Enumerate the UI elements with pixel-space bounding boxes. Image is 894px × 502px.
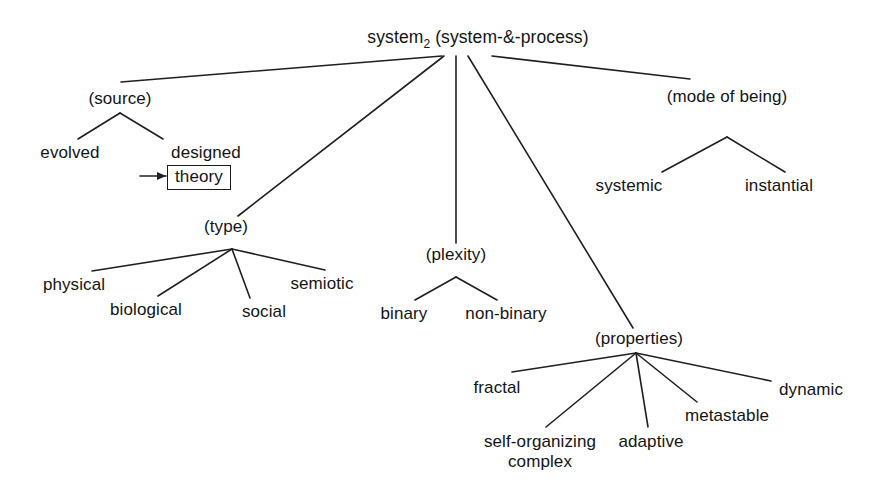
node-systemic: systemic xyxy=(596,176,663,196)
edge-root-to-type xyxy=(238,56,444,216)
node-mode-of-being: (mode of being) xyxy=(667,87,788,107)
node-non-binary: non-binary xyxy=(465,304,546,324)
edge-type-to-biological xyxy=(158,249,232,296)
edge-type-to-social xyxy=(232,249,250,298)
node-physical: physical xyxy=(43,275,105,295)
edge-mode-to-instantial xyxy=(727,137,785,172)
edge-mode-to-systemic xyxy=(662,137,727,172)
diagram-canvas: system2 (system-&-process) (source) evol… xyxy=(0,0,894,502)
node-instantial: instantial xyxy=(745,176,813,196)
edge-plexity-to-binary xyxy=(415,277,456,300)
edge-source-to-designed xyxy=(120,113,163,139)
node-self-organizing-complex: self-organizingcomplex xyxy=(484,432,596,471)
node-self-organizing-line2: complex xyxy=(484,452,596,472)
edge-properties-to-metastable xyxy=(636,353,697,402)
node-adaptive: adaptive xyxy=(618,432,683,452)
node-dynamic: dynamic xyxy=(779,380,843,400)
root-label-rest: (system-&-process) xyxy=(430,27,588,47)
node-properties: (properties) xyxy=(595,329,683,349)
root-label-subscript: 2 xyxy=(423,37,430,51)
node-semiotic: semiotic xyxy=(290,274,353,294)
node-source: (source) xyxy=(88,89,151,109)
edge-properties-to-dynamic xyxy=(636,353,771,381)
node-self-organizing-line1: self-organizing xyxy=(484,432,596,451)
edge-root-to-mode-of-being xyxy=(492,56,690,79)
edge-type-to-physical xyxy=(92,249,232,271)
node-metastable: metastable xyxy=(685,406,769,426)
node-type: (type) xyxy=(204,217,248,237)
node-evolved: evolved xyxy=(40,143,99,163)
edge-plexity-to-nonbinary xyxy=(456,277,497,300)
node-biological: biological xyxy=(110,300,182,320)
node-designed: designed xyxy=(171,143,241,163)
node-social: social xyxy=(242,302,286,322)
edge-type-to-semiotic xyxy=(232,249,325,270)
edge-source-to-evolved xyxy=(78,113,120,139)
edge-properties-to-adaptive xyxy=(636,353,648,427)
root-node-label: system2 (system-&-process) xyxy=(367,27,588,47)
node-fractal: fractal xyxy=(474,378,521,398)
root-label-main: system xyxy=(367,27,423,47)
arrow-right-icon-head xyxy=(157,172,166,180)
node-theory-box: theory xyxy=(167,165,231,190)
node-binary: binary xyxy=(381,304,428,324)
edge-root-to-source xyxy=(121,56,442,82)
node-plexity: (plexity) xyxy=(426,245,486,265)
